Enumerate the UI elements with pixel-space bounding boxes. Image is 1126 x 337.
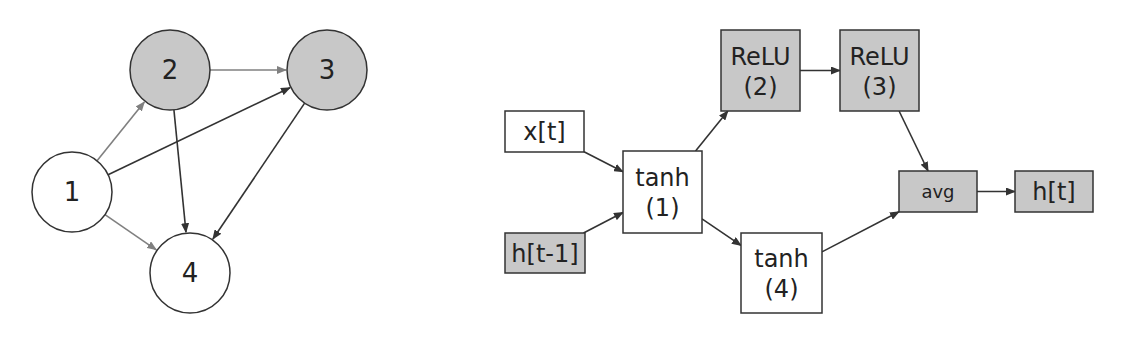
edge-1-to-4 [105,215,156,250]
box-label: x[t] [523,118,565,146]
graph-node-2: 2 [130,30,210,110]
edge-tanh1-to-relu2 [696,111,728,151]
box-tanh1: tanh(1) [623,151,702,233]
edge-ht1-to-tanh1 [584,213,623,233]
diagram-canvas: 1234 x[t]h[t-1]tanh(1)ReLU(2)ReLU(3)tanh… [0,0,1126,337]
box-label-line2: (2) [744,73,778,101]
box-label: avg [921,181,954,202]
edge-relu3-to-avg [899,111,928,171]
node-label: 3 [319,55,336,85]
graph-node-4: 4 [150,233,230,313]
edge-1-to-3 [108,88,290,175]
graph-node-3: 3 [287,30,367,110]
node-label: 4 [182,258,199,288]
dag-edges [97,70,305,250]
node-label: 2 [162,55,179,85]
box-avg: avg [899,171,977,212]
edge-1-to-2 [97,102,144,161]
box-label-line2: (3) [863,73,897,101]
edge-3-to-4 [213,103,305,239]
box-label-line1: tanh [754,245,809,273]
box-label-line1: tanh [635,164,690,192]
edge-tanh4-to-avg [822,212,899,252]
box-label-line1: ReLU [849,43,909,71]
edge-xt-to-tanh1 [584,152,623,172]
node-label: 1 [64,177,81,207]
box-xt: x[t] [505,111,584,152]
box-ht: h[t] [1015,171,1093,212]
edge-2-to-4 [174,110,186,232]
box-label: h[t-1] [511,240,578,268]
box-ht1: h[t-1] [505,233,585,273]
box-relu3: ReLU(3) [840,30,919,111]
box-label: h[t] [1032,178,1075,206]
box-label-line2: (1) [646,194,680,222]
box-tanh4: tanh(4) [741,233,822,313]
box-label-line2: (4) [765,275,799,303]
dag-nodes: 1234 [32,30,367,313]
box-relu2: ReLU(2) [721,30,800,111]
box-label-line1: ReLU [730,43,790,71]
edge-tanh1-to-tanh4 [702,219,741,246]
rnn-cell-boxes: x[t]h[t-1]tanh(1)ReLU(2)ReLU(3)tanh(4)av… [505,30,1093,313]
graph-node-1: 1 [32,152,112,232]
